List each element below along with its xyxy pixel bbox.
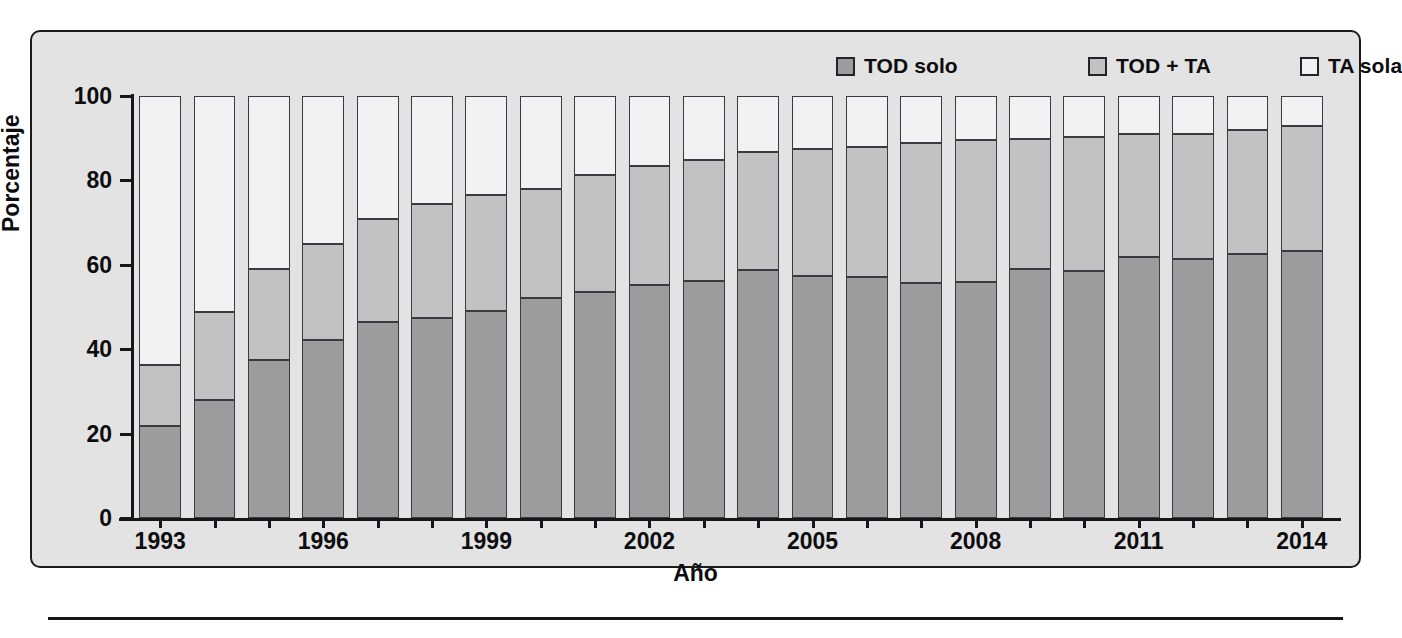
x-axis-tick	[1192, 518, 1195, 528]
bar-segment-ta-sola	[302, 96, 344, 244]
bar-segment-tod-solo	[1009, 269, 1051, 518]
bar-segment-ta-sola	[1172, 96, 1214, 134]
legend-item-1: TOD + TA	[1088, 52, 1211, 80]
legend-label: TA sola	[1328, 54, 1402, 78]
x-tick-label: 2014	[1276, 528, 1327, 555]
y-axis-tick	[120, 264, 131, 267]
y-axis-tick	[120, 95, 131, 98]
legend-label: TOD solo	[864, 54, 958, 78]
square-swatch-icon	[836, 57, 855, 76]
bar-segment-tod-+-ta	[139, 365, 181, 426]
bar-segment-tod-+-ta	[900, 143, 942, 283]
bar-segment-ta-sola	[737, 96, 779, 152]
bar-segment-tod-+-ta	[846, 147, 888, 277]
x-tick-label: 2002	[624, 528, 675, 555]
x-axis-tick	[1029, 518, 1032, 528]
legend-item-0: TOD solo	[836, 52, 958, 80]
y-axis-title: Porcentaje	[0, 114, 25, 232]
bar-segment-tod-solo	[302, 340, 344, 519]
bar-segment-tod-solo	[1281, 251, 1323, 518]
x-axis-tick	[812, 518, 815, 528]
x-axis-tick	[594, 518, 597, 528]
bar-segment-tod-+-ta	[1118, 134, 1160, 258]
bar-1997	[357, 96, 399, 518]
x-axis-tick	[1083, 518, 1086, 528]
bar-segment-tod-solo	[520, 298, 562, 518]
bar-segment-ta-sola	[1063, 96, 1105, 137]
bar-segment-ta-sola	[1227, 96, 1269, 130]
square-swatch-icon	[1300, 57, 1319, 76]
bar-segment-tod-+-ta	[955, 140, 997, 281]
bar-segment-ta-sola	[248, 96, 290, 269]
bar-segment-tod-+-ta	[194, 312, 236, 401]
x-axis-tick	[648, 518, 651, 528]
bar-segment-tod-solo	[139, 426, 181, 518]
footer-rule	[48, 617, 1343, 620]
bar-segment-tod-+-ta	[629, 166, 671, 285]
bar-segment-ta-sola	[194, 96, 236, 312]
bar-segment-tod-solo	[955, 282, 997, 518]
bar-segment-ta-sola	[1118, 96, 1160, 134]
x-axis-tick	[703, 518, 706, 528]
bar-segment-ta-sola	[411, 96, 453, 204]
bar-segment-ta-sola	[846, 96, 888, 147]
x-axis-title: Año	[0, 560, 1391, 587]
x-axis-tick	[1246, 518, 1249, 528]
bar-segment-tod-solo	[1118, 257, 1160, 518]
bar-2012	[1172, 96, 1214, 518]
bar-segment-ta-sola	[629, 96, 671, 166]
bar-segment-tod-solo	[194, 400, 236, 518]
bar-2002	[629, 96, 671, 518]
y-tick-label: 0	[0, 505, 112, 532]
square-swatch-icon	[1088, 57, 1107, 76]
bar-2007	[900, 96, 942, 518]
bar-2010	[1063, 96, 1105, 518]
bar-segment-tod-solo	[1063, 271, 1105, 518]
bar-segment-tod-+-ta	[520, 189, 562, 298]
bar-segment-tod-+-ta	[1281, 126, 1323, 251]
x-tick-label: 1999	[461, 528, 512, 555]
bar-segment-tod-+-ta	[683, 160, 725, 282]
bar-2013	[1227, 96, 1269, 518]
legend-item-2: TA sola	[1300, 52, 1402, 80]
bar-2008	[955, 96, 997, 518]
x-axis-tick	[975, 518, 978, 528]
x-tick-label: 2011	[1114, 528, 1164, 555]
x-axis-tick	[866, 518, 869, 528]
x-axis-tick	[159, 518, 162, 528]
y-axis-tick	[120, 348, 131, 351]
x-axis-tick	[431, 518, 434, 528]
bar-segment-ta-sola	[1009, 96, 1051, 139]
bar-segment-tod-+-ta	[248, 269, 290, 361]
bar-segment-tod-+-ta	[411, 204, 453, 318]
x-axis-tick	[268, 518, 271, 528]
y-tick-label: 40	[0, 336, 112, 363]
bar-segment-tod-solo	[1172, 259, 1214, 518]
y-tick-label-group: 020406080100	[0, 0, 112, 638]
x-tick-label: 1996	[298, 528, 349, 555]
bar-segment-tod-solo	[465, 311, 507, 518]
bar-segment-ta-sola	[357, 96, 399, 219]
bar-segment-tod-solo	[574, 292, 616, 518]
bar-1994	[194, 96, 236, 518]
bar-2000	[520, 96, 562, 518]
bar-segment-tod-+-ta	[1172, 134, 1214, 259]
y-axis-tick	[120, 433, 131, 436]
y-axis-tick	[120, 179, 131, 182]
x-axis-tick	[214, 518, 217, 528]
x-axis-line	[119, 518, 1341, 521]
bar-1995	[248, 96, 290, 518]
x-axis-tick	[377, 518, 380, 528]
bar-segment-ta-sola	[792, 96, 834, 149]
y-tick-label: 20	[0, 420, 112, 447]
legend-label: TOD + TA	[1116, 54, 1211, 78]
x-tick-label: 2008	[950, 528, 1001, 555]
x-axis-tick	[920, 518, 923, 528]
bar-2004	[737, 96, 779, 518]
bar-segment-tod-solo	[737, 270, 779, 518]
bar-2001	[574, 96, 616, 518]
bar-segment-tod-solo	[900, 283, 942, 518]
bar-segment-ta-sola	[465, 96, 507, 195]
bar-segment-tod-+-ta	[1009, 139, 1051, 269]
